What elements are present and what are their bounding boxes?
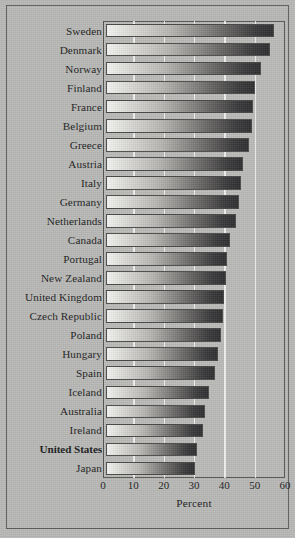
bar [106,328,221,342]
category-label: Iceland [12,386,106,398]
bar-row: Austria [12,154,285,173]
bar-track [106,211,285,230]
bar [106,405,205,419]
bar-track [106,383,285,402]
bar [106,309,223,323]
bar-track [106,326,285,345]
bar-row: Netherlands [12,211,285,230]
bar [106,138,249,152]
bar [106,214,236,228]
bar [106,386,209,400]
bar-row: Greece [12,135,285,154]
x-axis-tick-labels: 0102030405060 [103,479,285,495]
bar-row: Finland [12,78,285,97]
bar-track [106,364,285,383]
bar-track [106,288,285,307]
category-label: United Kingdom [12,291,106,303]
bar-track [106,269,285,288]
bar-track [106,345,285,364]
bar-chart: SwedenDenmarkNorwayFinlandFranceBelgiumG… [0,0,295,538]
bar-track [106,402,285,421]
x-axis-title: Percent [103,497,285,509]
bar-track [106,250,285,269]
category-label: Denmark [12,44,106,56]
x-tick-label: 0 [100,479,106,491]
bar-row: Denmark [12,40,285,59]
bar-row: Hungary [12,345,285,364]
category-label: Australia [12,405,106,417]
bar-row: Norway [12,59,285,78]
category-label: Canada [12,234,106,246]
bar-track [106,116,285,135]
bar-row: Germany [12,192,285,211]
category-label: Czech Republic [12,310,106,322]
category-label: Italy [12,177,106,189]
bar-row: Sweden [12,21,285,40]
bar [106,462,195,476]
bar-row: Canada [12,230,285,249]
x-tick-label: 60 [280,479,291,491]
bar-row: Iceland [12,383,285,402]
bar [106,43,270,57]
bar [106,443,197,457]
x-tick-label: 50 [249,479,260,491]
bar [106,62,261,76]
bar-track [106,173,285,192]
bar [106,347,218,361]
bar [106,119,252,133]
category-label: Portugal [12,253,106,265]
bar-track [106,440,285,459]
category-label: Sweden [12,25,106,37]
category-label: United States [12,443,106,455]
bar-row: Italy [12,173,285,192]
bar-track [106,40,285,59]
category-label: New Zealand [12,272,106,284]
category-label: France [12,101,106,113]
bar [106,100,253,114]
bar [106,176,241,190]
bar-row: Poland [12,326,285,345]
bar-track [106,421,285,440]
category-label: Japan [12,462,106,474]
bar [106,195,239,209]
bar-track [106,135,285,154]
bar [106,252,227,266]
bar-row: Czech Republic [12,307,285,326]
category-label: Belgium [12,120,106,132]
category-label: Spain [12,367,106,379]
category-label: Hungary [12,348,106,360]
bar-track [106,307,285,326]
bar [106,290,224,304]
bar [106,81,255,95]
bar-track [106,78,285,97]
bar-row: New Zealand [12,269,285,288]
bar [106,157,243,171]
x-tick-label: 20 [158,479,169,491]
bar [106,24,274,38]
bar [106,271,226,285]
bar-row: Ireland [12,421,285,440]
x-tick-label: 40 [219,479,230,491]
bar-track [106,21,285,40]
x-tick-label: 10 [128,479,139,491]
category-label: Netherlands [12,215,106,227]
bar-track [106,97,285,116]
bar-row: United Kingdom [12,288,285,307]
bar [106,366,215,380]
bar-track [106,459,285,478]
category-label: Germany [12,196,106,208]
bar-row: United States [12,440,285,459]
bar-track [106,192,285,211]
bar-row: Belgium [12,116,285,135]
category-label: Norway [12,63,106,75]
figure-panel: SwedenDenmarkNorwayFinlandFranceBelgiumG… [0,0,295,538]
bar-track [106,59,285,78]
bar-track [106,154,285,173]
category-label: Poland [12,329,106,341]
bar [106,424,203,438]
bar-row: Portugal [12,250,285,269]
category-label: Greece [12,139,106,151]
bar-track [106,230,285,249]
category-label: Austria [12,158,106,170]
x-tick-label: 30 [189,479,200,491]
